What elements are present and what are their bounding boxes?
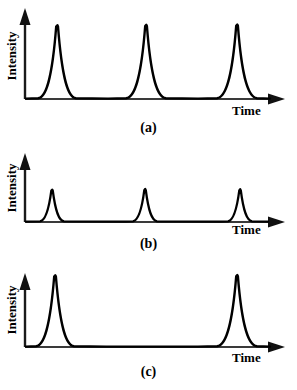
y-axis-arrow-icon bbox=[20, 153, 31, 170]
y-axis-label: Intensity bbox=[4, 280, 20, 340]
panel-a: Intensity Time (a) bbox=[0, 0, 297, 148]
x-axis-arrow-icon bbox=[268, 217, 285, 228]
panel-caption-b: (b) bbox=[0, 236, 297, 252]
pulse-train-curve bbox=[26, 275, 270, 347]
panel-caption-c: (c) bbox=[0, 364, 297, 380]
panel-b: Intensity Time (b) bbox=[0, 148, 297, 266]
pulse-train-curve bbox=[26, 25, 270, 99]
panel-c: Intensity Time (c) bbox=[0, 266, 297, 390]
y-axis-label: Intensity bbox=[4, 158, 20, 218]
panel-caption-a: (a) bbox=[0, 120, 297, 136]
pulse-train-figure: Intensity Time (a) Intensity Time (b) bbox=[0, 0, 297, 390]
pulse-train-curve bbox=[26, 189, 268, 222]
y-axis-arrow-icon bbox=[20, 8, 31, 25]
panel-a-plot bbox=[0, 0, 297, 118]
y-axis-arrow-icon bbox=[20, 273, 31, 290]
x-axis-label: Time bbox=[232, 103, 261, 119]
y-axis-label: Intensity bbox=[4, 26, 20, 86]
